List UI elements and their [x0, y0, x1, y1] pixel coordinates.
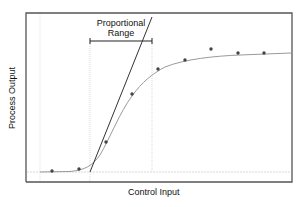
data-point	[130, 92, 133, 95]
data-point	[262, 51, 265, 54]
tangent-line	[90, 17, 152, 172]
annotation-line-2: Range	[86, 28, 156, 38]
annotation-line-1: Proportional	[86, 18, 156, 28]
data-point	[209, 47, 212, 50]
data-point	[77, 167, 80, 170]
data-point	[156, 67, 159, 70]
proportional-range-annotation: Proportional Range	[86, 18, 156, 38]
plot-frame	[26, 13, 292, 182]
data-point	[183, 58, 186, 61]
data-point	[50, 169, 53, 172]
data-point	[236, 51, 239, 54]
x-axis-label: Control Input	[128, 187, 180, 197]
y-axis-label: Process Output	[7, 69, 17, 129]
data-points	[50, 47, 265, 172]
data-point	[104, 140, 107, 143]
fit-curve	[40, 53, 291, 172]
